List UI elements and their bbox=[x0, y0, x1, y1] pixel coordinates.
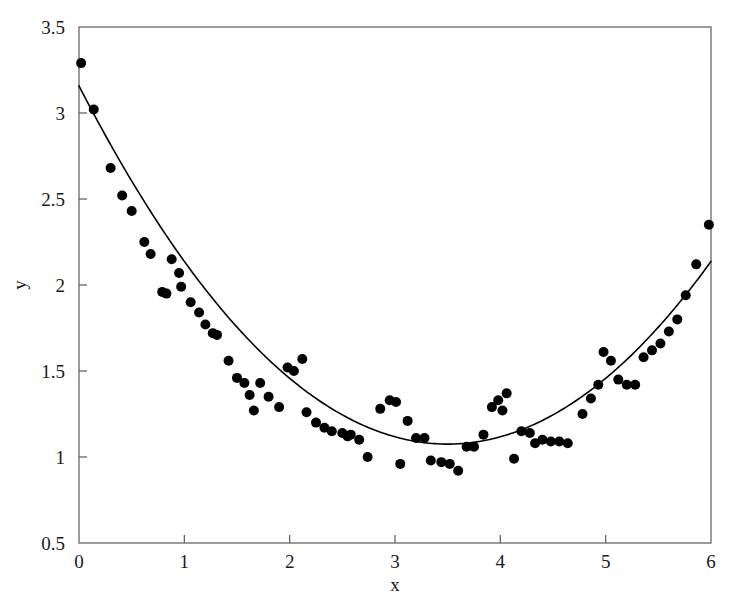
data-point bbox=[493, 395, 503, 405]
data-point bbox=[327, 426, 337, 436]
scatter-plot: 0.511.522.533.50123456xy bbox=[0, 0, 739, 608]
data-point bbox=[176, 282, 186, 292]
data-point bbox=[497, 406, 507, 416]
data-point bbox=[146, 249, 156, 259]
data-point bbox=[525, 428, 535, 438]
data-point bbox=[403, 416, 413, 426]
data-point bbox=[375, 404, 385, 414]
data-point bbox=[647, 345, 657, 355]
data-point bbox=[691, 259, 701, 269]
data-point bbox=[537, 435, 547, 445]
data-point bbox=[453, 466, 463, 476]
data-point bbox=[391, 397, 401, 407]
x-axis-title: x bbox=[390, 574, 400, 595]
data-point bbox=[445, 459, 455, 469]
y-tick-label: 3.5 bbox=[41, 17, 65, 38]
data-point bbox=[639, 352, 649, 362]
x-tick-label: 0 bbox=[74, 551, 84, 572]
y-tick-label: 1.5 bbox=[41, 361, 65, 382]
data-point bbox=[469, 442, 479, 452]
data-point bbox=[255, 378, 265, 388]
data-point bbox=[139, 237, 149, 247]
data-point bbox=[563, 438, 573, 448]
data-point bbox=[655, 338, 665, 348]
x-tick-label: 2 bbox=[285, 551, 295, 572]
y-tick-label: 1 bbox=[56, 447, 66, 468]
data-point bbox=[245, 390, 255, 400]
x-tick-label: 6 bbox=[706, 551, 716, 572]
data-point bbox=[89, 105, 99, 115]
data-point bbox=[599, 347, 609, 357]
y-tick-label: 0.5 bbox=[41, 533, 65, 554]
data-point bbox=[672, 314, 682, 324]
data-point bbox=[704, 220, 714, 230]
data-point bbox=[554, 437, 564, 447]
x-tick-label: 3 bbox=[390, 551, 400, 572]
data-point bbox=[194, 308, 204, 318]
y-axis-title: y bbox=[9, 280, 30, 290]
data-point bbox=[224, 356, 234, 366]
plot-frame bbox=[79, 27, 711, 543]
x-tick-label: 1 bbox=[180, 551, 190, 572]
data-point bbox=[630, 380, 640, 390]
data-point bbox=[478, 430, 488, 440]
data-point bbox=[419, 433, 429, 443]
data-point bbox=[174, 268, 184, 278]
data-point bbox=[289, 366, 299, 376]
x-tick-label: 4 bbox=[496, 551, 506, 572]
data-point bbox=[509, 454, 519, 464]
data-point bbox=[681, 290, 691, 300]
data-point bbox=[613, 375, 623, 385]
data-point bbox=[161, 289, 171, 299]
data-point bbox=[186, 297, 196, 307]
data-point bbox=[239, 378, 249, 388]
data-point bbox=[606, 356, 616, 366]
data-point bbox=[274, 402, 284, 412]
data-point bbox=[346, 430, 356, 440]
data-point bbox=[200, 320, 210, 330]
data-point bbox=[664, 326, 674, 336]
data-point bbox=[586, 394, 596, 404]
data-point bbox=[436, 457, 446, 467]
data-point bbox=[426, 455, 436, 465]
data-point bbox=[395, 459, 405, 469]
data-point bbox=[117, 191, 127, 201]
y-tick-label: 3 bbox=[56, 103, 66, 124]
data-point bbox=[76, 58, 86, 68]
data-point bbox=[311, 418, 321, 428]
data-point bbox=[167, 254, 177, 264]
x-tick-label: 5 bbox=[601, 551, 611, 572]
data-point bbox=[593, 380, 603, 390]
y-tick-label: 2 bbox=[56, 275, 66, 296]
chart-figure: 0.511.522.533.50123456xy bbox=[0, 0, 739, 608]
data-point bbox=[363, 452, 373, 462]
data-point bbox=[302, 407, 312, 417]
data-point bbox=[127, 206, 137, 216]
data-point bbox=[516, 426, 526, 436]
data-point bbox=[502, 388, 512, 398]
data-point bbox=[577, 409, 587, 419]
data-point bbox=[264, 392, 274, 402]
data-point bbox=[354, 435, 364, 445]
data-point bbox=[249, 406, 259, 416]
data-point bbox=[297, 354, 307, 364]
data-point bbox=[212, 330, 222, 340]
data-point bbox=[106, 163, 116, 173]
y-tick-label: 2.5 bbox=[41, 189, 65, 210]
